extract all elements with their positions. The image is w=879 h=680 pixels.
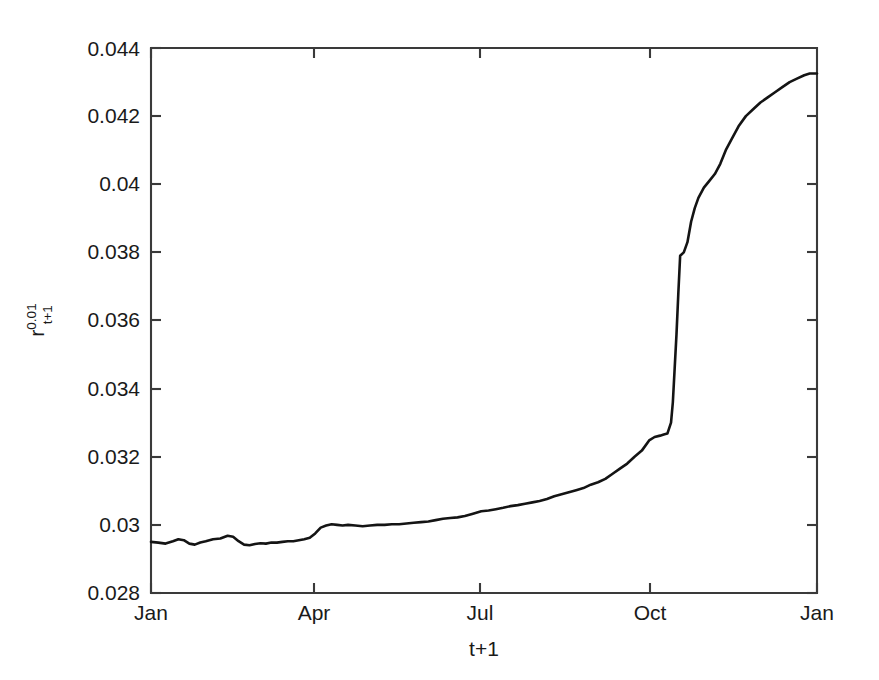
chart-figure: 0.028 0.03 0.032 0.034 0.036 0.038 0.04 … [0,0,879,680]
data-series-line [151,74,817,546]
y-axis-title: r0.01t+1 [24,303,55,336]
y-tick-label: 0.028 [87,581,140,604]
line-chart: 0.028 0.03 0.032 0.034 0.036 0.038 0.04 … [0,0,879,680]
x-axis-title: t+1 [469,637,499,660]
x-tick-label: Jan [800,601,834,624]
y-axis-title-base: r [25,330,48,337]
x-tick-labels: Jan Apr Jul Oct Jan [134,601,834,624]
y-tick-label: 0.038 [87,240,140,263]
y-axis-title-superscript: 0.01 [24,303,39,329]
y-tick-label: 0.044 [87,37,140,60]
y-tick-label: 0.034 [87,377,140,400]
y-tick-label: 0.032 [87,445,140,468]
svg-text:r0.01t+1: r0.01t+1 [24,303,55,336]
y-tick-label: 0.036 [87,308,140,331]
y-tick-label: 0.042 [87,104,140,127]
x-tick-label: Jan [134,601,168,624]
x-tick-label: Apr [298,601,331,624]
y-axis-title-subscript: t+1 [40,305,55,324]
x-tick-label: Oct [634,601,667,624]
y-tick-label: 0.04 [99,172,140,195]
x-tick-label: Jul [467,601,494,624]
y-tick-label: 0.03 [99,513,140,536]
y-tick-labels: 0.028 0.03 0.032 0.034 0.036 0.038 0.04 … [87,37,140,604]
